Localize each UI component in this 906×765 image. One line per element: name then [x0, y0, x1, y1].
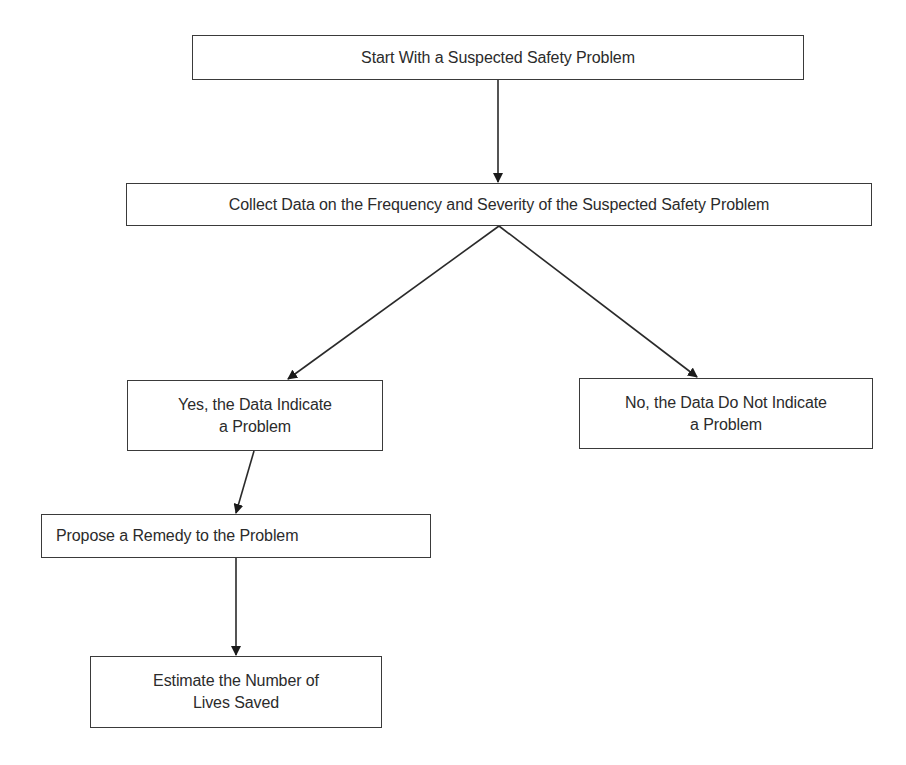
node-collect-data: Collect Data on the Frequency and Severi… [126, 183, 872, 226]
node-estimate-lives-line1: Estimate the Number of [153, 670, 319, 692]
node-yes-problem: Yes, the Data Indicate a Problem [127, 380, 383, 451]
node-estimate-lives: Estimate the Number of Lives Saved [90, 656, 382, 728]
node-no-problem-line1: No, the Data Do Not Indicate [625, 392, 827, 414]
node-start-label: Start With a Suspected Safety Problem [361, 47, 635, 69]
node-collect-data-label: Collect Data on the Frequency and Severi… [229, 194, 769, 216]
node-propose-remedy-label: Propose a Remedy to the Problem [56, 525, 298, 547]
node-propose-remedy: Propose a Remedy to the Problem [41, 514, 431, 558]
node-no-problem: No, the Data Do Not Indicate a Problem [579, 378, 873, 449]
node-no-problem-line2: a Problem [690, 414, 762, 436]
node-estimate-lives-line2: Lives Saved [193, 692, 279, 714]
node-yes-problem-line1: Yes, the Data Indicate [178, 394, 332, 416]
edge-yes-to-remedy [236, 451, 254, 513]
node-start: Start With a Suspected Safety Problem [192, 35, 804, 80]
edge-collect-to-no [499, 226, 697, 377]
node-yes-problem-line2: a Problem [219, 416, 291, 438]
edge-collect-to-yes [288, 226, 499, 379]
